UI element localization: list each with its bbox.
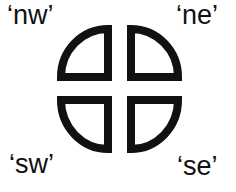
quadrant-se bbox=[131, 100, 178, 149]
quartered-circle-diagram bbox=[0, 0, 236, 192]
quadrant-nw bbox=[61, 29, 108, 77]
quadrant-ne bbox=[131, 29, 178, 77]
quadrant-sw bbox=[61, 100, 108, 149]
